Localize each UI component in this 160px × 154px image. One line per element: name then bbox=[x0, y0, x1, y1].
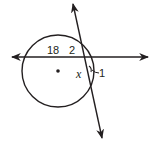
angle-1-arc bbox=[89, 66, 91, 72]
label-18: 18 bbox=[47, 44, 59, 56]
geometry-diagram: 18 2 x 1 bbox=[0, 0, 160, 154]
label-x: x bbox=[75, 67, 82, 81]
angle-1-leader bbox=[92, 70, 99, 73]
center-point bbox=[56, 69, 60, 73]
label-2: 2 bbox=[69, 44, 75, 56]
label-angle-1: 1 bbox=[99, 67, 105, 79]
